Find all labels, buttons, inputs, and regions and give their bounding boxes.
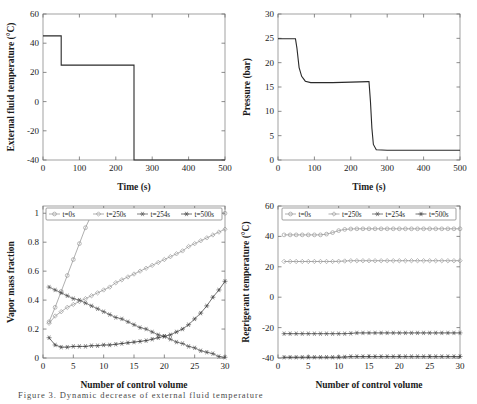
y-tick-label: 0.4 — [28, 295, 40, 305]
legend-label: t=254s — [151, 211, 171, 219]
y-tick-label: 0 — [35, 97, 40, 107]
y-axis-label: Regrigerant temperature (°C) — [241, 221, 252, 342]
y-tick-label: 10 — [265, 106, 275, 116]
x-tick-label: 500 — [218, 163, 232, 173]
y-tick-label: -20 — [262, 323, 274, 333]
x-axis-label: Time (s) — [352, 182, 385, 193]
legend-label: t=0s — [63, 211, 76, 219]
x-tick-label: 300 — [145, 163, 159, 173]
x-tick-label: 25 — [425, 361, 435, 371]
legend-label: t=254s — [386, 211, 406, 219]
x-tick-label: 200 — [109, 163, 123, 173]
x-tick-label: 400 — [182, 163, 196, 173]
y-tick-label: 40 — [30, 38, 40, 48]
x-tick-label: 100 — [308, 163, 322, 173]
y-axis-label: Pressure (bar) — [242, 58, 253, 116]
y-tick-label: 60 — [30, 9, 40, 19]
x-tick-label: 0 — [41, 361, 46, 371]
y-tick-label: 30 — [265, 9, 275, 19]
chart-svg-bottom-right: 051015202530-40-200204060 t=0st=250st=25… — [238, 196, 477, 392]
figure-container: 0100200300400500-40-200204060 Time (s) E… — [0, 0, 477, 404]
legend-bottom-right: t=0st=250st=254st=500s — [282, 208, 456, 220]
y-tick-label: -40 — [262, 353, 274, 363]
x-tick-label: 0 — [276, 361, 281, 371]
x-tick-label: 30 — [456, 361, 466, 371]
plot-area-bottom-left — [43, 206, 225, 358]
chart-external-fluid-temperature: 0100200300400500-40-200204060 Time (s) E… — [0, 0, 240, 195]
y-tick-label: 40 — [265, 231, 275, 241]
chart-svg-top-right: 0100200300400500051015202530 Time (s) Pr… — [238, 0, 477, 195]
x-tick-label: 20 — [395, 361, 405, 371]
legend-label: t=0s — [299, 211, 312, 219]
legend-label: t=500s — [429, 211, 449, 219]
figure-caption: Figure 3. Dynamic decrease of external f… — [18, 390, 468, 400]
x-tick-label: 10 — [99, 361, 109, 371]
legend-bottom-left: t=0st=250st=254st=500s — [46, 208, 222, 220]
x-tick-label: 20 — [160, 361, 170, 371]
x-tick-label: 15 — [365, 361, 375, 371]
x-tick-label: 0 — [276, 163, 281, 173]
y-tick-label: -20 — [27, 126, 39, 136]
chart-svg-top-left: 0100200300400500-40-200204060 Time (s) E… — [0, 0, 240, 195]
y-tick-label: 0.2 — [28, 324, 39, 334]
legend-label: t=250s — [342, 211, 362, 219]
chart-vapor-mass-fraction: 05101520253000.20.40.60.81 t=0st=250st=2… — [0, 196, 240, 392]
x-tick-label: 5 — [71, 361, 76, 371]
legend-label: t=250s — [107, 211, 127, 219]
y-tick-label: 15 — [265, 82, 275, 92]
x-axis-label: Number of control volume — [80, 380, 187, 390]
y-tick-label: 20 — [30, 67, 40, 77]
y-tick-label: 0 — [270, 292, 275, 302]
y-tick-label: 20 — [265, 58, 275, 68]
y-tick-label: 0 — [270, 155, 275, 165]
x-axis-label: Time (s) — [117, 182, 150, 193]
x-tick-label: 500 — [453, 163, 467, 173]
x-tick-label: 5 — [306, 361, 311, 371]
x-axis-label: Number of control volume — [315, 380, 422, 390]
chart-refrigerant-temperature: 051015202530-40-200204060 t=0st=250st=25… — [238, 196, 477, 392]
x-tick-label: 0 — [41, 163, 46, 173]
x-tick-label: 25 — [190, 361, 200, 371]
x-tick-label: 200 — [344, 163, 358, 173]
y-tick-label: 0.8 — [28, 237, 40, 247]
y-tick-label: -40 — [27, 155, 39, 165]
y-tick-label: 1 — [35, 208, 40, 218]
y-tick-label: 5 — [270, 131, 275, 141]
chart-pressure: 0100200300400500051015202530 Time (s) Pr… — [238, 0, 477, 195]
x-tick-label: 300 — [380, 163, 394, 173]
x-tick-label: 30 — [221, 361, 231, 371]
x-tick-label: 10 — [334, 361, 344, 371]
chart-svg-bottom-left: 05101520253000.20.40.60.81 t=0st=250st=2… — [0, 196, 240, 392]
legend-label: t=500s — [195, 211, 215, 219]
y-tick-label: 25 — [265, 33, 275, 43]
x-tick-label: 100 — [73, 163, 87, 173]
y-tick-label: 20 — [265, 262, 275, 272]
x-tick-label: 15 — [130, 361, 140, 371]
x-tick-label: 400 — [417, 163, 431, 173]
y-tick-label: 0.6 — [28, 266, 40, 276]
plot-frame — [43, 206, 225, 358]
y-axis-label: External fluid temperature (°C) — [6, 23, 17, 152]
y-tick-label: 60 — [265, 201, 275, 211]
y-tick-label: 0 — [35, 353, 40, 363]
y-axis-label: Vapor mass fraction — [6, 240, 16, 323]
